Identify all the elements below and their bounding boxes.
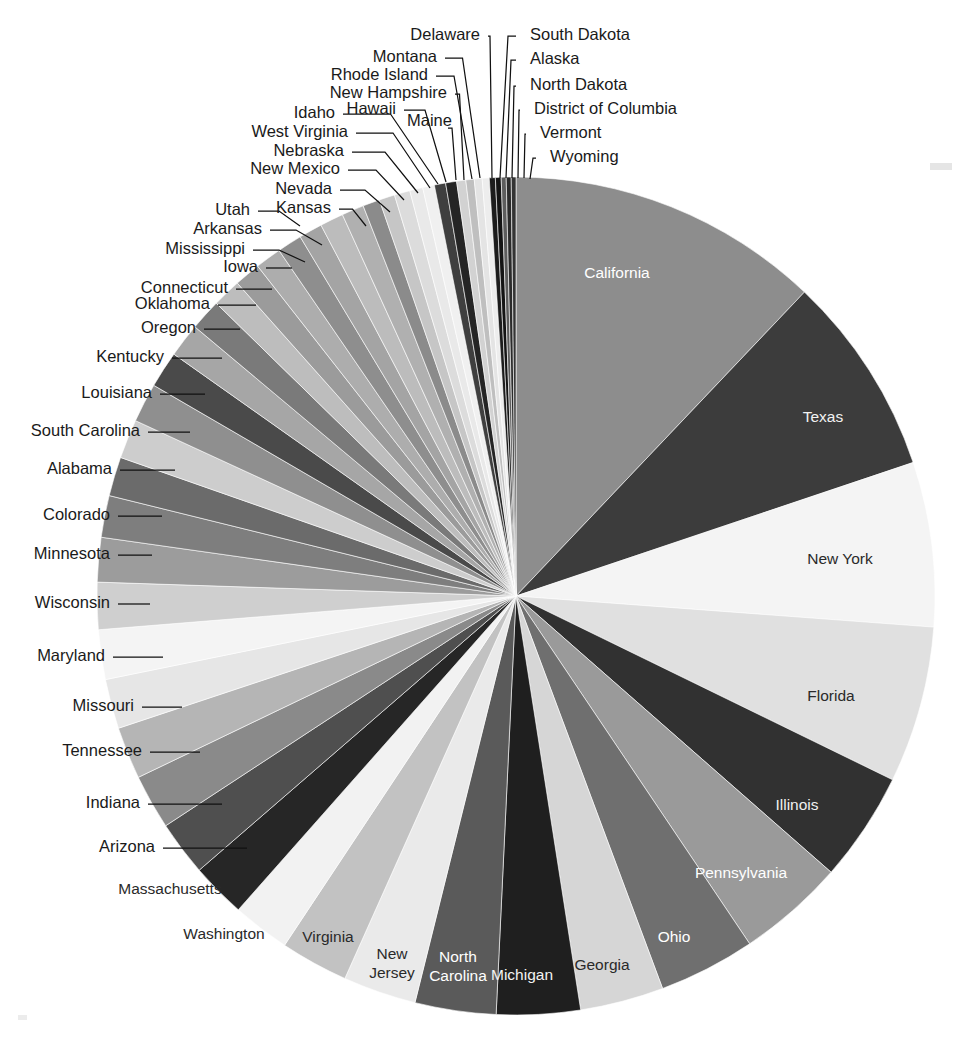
pie-callout-label-montana: Montana bbox=[373, 47, 438, 65]
leader-line-north-dakota bbox=[512, 86, 516, 178]
pie-slice-label-north-carolina: North bbox=[439, 948, 477, 965]
pie-callout-label-oregon: Oregon bbox=[141, 318, 196, 336]
pie-callout-label-kansas: Kansas bbox=[276, 198, 331, 216]
leader-line-delaware bbox=[488, 36, 492, 178]
pie-slices-group bbox=[97, 177, 935, 1015]
pie-slice-label-new-york: New York bbox=[807, 550, 873, 567]
pie-callout-label-district-of-columbia: District of Columbia bbox=[534, 99, 678, 117]
pie-callout-label-utah: Utah bbox=[215, 200, 250, 218]
leader-line-vermont bbox=[524, 134, 526, 178]
pie-callout-label-new-hampshire: New Hampshire bbox=[330, 83, 447, 101]
pie-callout-label-oklahoma: Oklahoma bbox=[135, 294, 211, 312]
pie-callout-label-mississippi: Mississippi bbox=[165, 239, 245, 257]
pie-callout-label-connecticut: Connecticut bbox=[141, 278, 229, 296]
pie-callout-label-vermont: Vermont bbox=[540, 123, 602, 141]
pie-callout-label-delaware: Delaware bbox=[410, 25, 480, 43]
pie-callout-label-alabama: Alabama bbox=[47, 459, 113, 477]
pie-callout-label-arkansas: Arkansas bbox=[193, 219, 262, 237]
pie-callout-label-kentucky: Kentucky bbox=[96, 347, 165, 365]
pie-slice-label-washington: Washington bbox=[183, 925, 264, 942]
pie-callout-label-wyoming: Wyoming bbox=[550, 147, 619, 165]
pie-chart-figure: CaliforniaTexasNew YorkFloridaIllinoisPe… bbox=[0, 0, 955, 1046]
pie-slice-label-california: California bbox=[584, 264, 650, 281]
pie-slice-label-new-jersey: New bbox=[376, 945, 408, 962]
pie-callout-label-arizona: Arizona bbox=[99, 837, 156, 855]
pie-callout-label-tennessee: Tennessee bbox=[62, 741, 142, 759]
pie-callout-label-south-dakota: South Dakota bbox=[530, 25, 631, 43]
pie-callout-label-wisconsin: Wisconsin bbox=[35, 593, 110, 611]
pie-slice-label-massachusetts: Massachusetts bbox=[118, 880, 222, 897]
leader-line-district-of-columbia bbox=[518, 110, 520, 178]
scan-artifact-bottom-left bbox=[18, 1015, 27, 1020]
pie-callout-label-south-carolina: South Carolina bbox=[31, 421, 141, 439]
pie-callout-label-rhode-island: Rhode Island bbox=[331, 65, 428, 83]
pie-callout-label-nevada: Nevada bbox=[275, 179, 333, 197]
pie-slice-label-illinois: Illinois bbox=[775, 796, 818, 813]
pie-slice-label-north-carolina: Carolina bbox=[429, 967, 487, 984]
pie-callout-label-new-mexico: New Mexico bbox=[250, 159, 340, 177]
pie-callout-label-iowa: Iowa bbox=[223, 257, 259, 275]
pie-slice-label-michigan: Michigan bbox=[491, 966, 553, 983]
leader-line-alaska bbox=[506, 60, 516, 178]
scan-artifact-top-right bbox=[930, 163, 952, 170]
pie-chart-svg: CaliforniaTexasNew YorkFloridaIllinoisPe… bbox=[0, 0, 955, 1046]
pie-slice-label-georgia: Georgia bbox=[574, 956, 630, 973]
pie-callout-label-colorado: Colorado bbox=[43, 505, 110, 523]
pie-slice-label-new-jersey: Jersey bbox=[369, 964, 415, 981]
pie-callout-label-louisiana: Louisiana bbox=[81, 383, 152, 401]
pie-callout-label-idaho: Idaho bbox=[294, 103, 335, 121]
pie-callout-label-minnesota: Minnesota bbox=[34, 544, 111, 562]
pie-callout-label-alaska: Alaska bbox=[530, 49, 580, 67]
pie-slice-label-pennsylvania: Pennsylvania bbox=[695, 864, 788, 881]
pie-callout-label-maine: Maine bbox=[407, 111, 452, 129]
pie-callout-label-indiana: Indiana bbox=[86, 793, 141, 811]
leader-line-wyoming bbox=[530, 158, 536, 179]
leader-line-nebraska bbox=[352, 152, 418, 193]
pie-slice-label-ohio: Ohio bbox=[658, 928, 691, 945]
pie-callout-label-north-dakota: North Dakota bbox=[530, 75, 628, 93]
pie-callout-label-missouri: Missouri bbox=[73, 696, 134, 714]
pie-callout-label-nebraska: Nebraska bbox=[273, 141, 344, 159]
pie-slice-label-virginia: Virginia bbox=[302, 928, 354, 945]
pie-callout-label-west-virginia: West Virginia bbox=[251, 122, 348, 140]
pie-callout-label-hawaii: Hawaii bbox=[346, 99, 396, 117]
pie-slice-label-florida: Florida bbox=[807, 687, 855, 704]
pie-callout-label-maryland: Maryland bbox=[37, 646, 105, 664]
leader-line-west-virginia bbox=[356, 133, 430, 188]
leader-line-maine bbox=[448, 128, 456, 180]
pie-slice-label-texas: Texas bbox=[803, 408, 844, 425]
